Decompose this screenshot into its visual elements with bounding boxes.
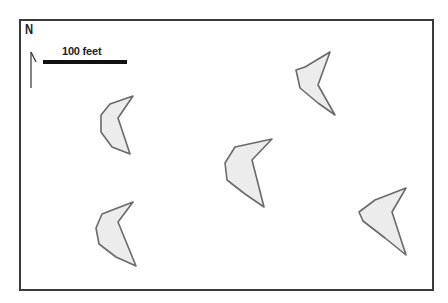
dune-center: [225, 139, 272, 207]
scale-bar: [43, 60, 127, 64]
north-label: N: [25, 22, 33, 36]
scale-label: 100 feet: [62, 46, 101, 57]
dune-top-right: [296, 52, 335, 115]
dune-left-lower: [96, 202, 136, 266]
dune-right-lower: [359, 188, 406, 255]
north-arrow-icon: [31, 52, 36, 88]
barchan-dunes: [96, 52, 406, 266]
dune-left-upper: [101, 96, 133, 154]
